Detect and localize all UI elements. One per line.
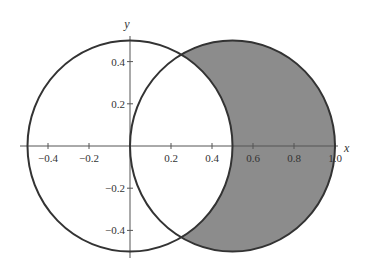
- x-axis-label: x: [343, 141, 350, 155]
- x-tick-label: 0.2: [164, 152, 178, 164]
- x-tick-label: 0.8: [287, 152, 301, 164]
- y-tick-label: 0.4: [111, 56, 125, 68]
- x-tick-label: −0.4: [38, 152, 58, 164]
- x-tick-label: −0.2: [79, 152, 99, 164]
- x-tick-label: 0.4: [205, 152, 219, 164]
- y-tick-label: −0.2: [105, 182, 125, 194]
- x-tick-label: 1.0: [328, 152, 342, 164]
- x-tick-label: 0.6: [246, 152, 260, 164]
- y-axis-label: y: [123, 17, 130, 31]
- chart-canvas: −0.4 −0.2 0.2 0.4 0.6 0.8 1.0 0.4 0.2 −0…: [0, 0, 377, 271]
- y-tick-label: −0.4: [105, 224, 125, 236]
- y-tick-label: 0.2: [111, 98, 125, 110]
